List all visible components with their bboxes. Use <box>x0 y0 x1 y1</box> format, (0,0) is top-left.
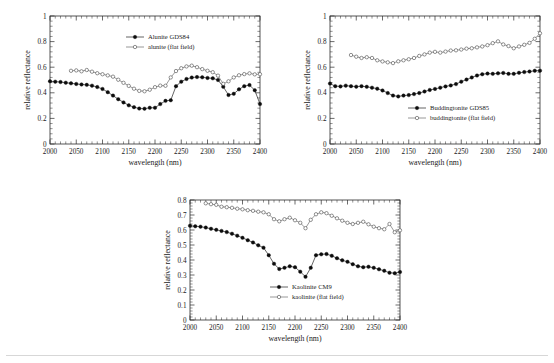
x-tick-label: 2050 <box>349 148 364 156</box>
data-point <box>206 76 210 80</box>
data-point <box>209 203 212 206</box>
data-point <box>423 90 427 94</box>
data-point <box>117 78 120 81</box>
data-point <box>470 47 473 50</box>
legend-label: Buddingtonite GDS85 <box>430 104 490 111</box>
y-tick-label: 0.5 <box>178 242 187 250</box>
data-point <box>272 218 275 221</box>
data-point <box>69 69 72 72</box>
data-point <box>533 69 537 73</box>
y-tick-label: 0.6 <box>318 64 327 72</box>
footer-divider <box>6 355 548 356</box>
data-point <box>433 50 436 53</box>
data-point <box>220 205 223 208</box>
data-point <box>138 107 142 111</box>
x-tick-label: 2300 <box>200 148 215 156</box>
data-point <box>230 232 234 236</box>
data-point <box>334 84 338 88</box>
data-point <box>386 61 389 64</box>
data-point <box>538 69 542 73</box>
data-point <box>360 84 364 88</box>
data-point <box>272 262 276 266</box>
data-point <box>328 82 332 86</box>
data-point <box>330 254 334 257</box>
legend-swatch-marker <box>415 116 418 119</box>
kaolinite-plot: 20002050210021502200225023002350240000.1… <box>148 190 410 358</box>
data-point <box>386 91 390 95</box>
data-point <box>243 84 247 88</box>
data-point <box>370 86 374 90</box>
chart-panel-kaolinite: 20002050210021502200225023002350240000.1… <box>148 190 410 358</box>
x-tick-label: 2150 <box>122 148 137 156</box>
data-point <box>304 275 308 279</box>
data-point <box>533 37 536 40</box>
data-point <box>148 88 151 91</box>
data-point <box>216 78 220 82</box>
data-point <box>159 102 163 106</box>
data-point <box>367 223 370 226</box>
y-axis-title: relative reflectance <box>23 50 32 110</box>
data-point <box>246 238 250 242</box>
data-point <box>320 211 323 214</box>
data-point <box>236 234 240 238</box>
data-point <box>325 252 329 256</box>
data-point <box>339 85 343 89</box>
data-point <box>335 256 339 260</box>
data-point <box>209 227 213 231</box>
data-point <box>349 53 352 56</box>
data-point <box>335 217 338 220</box>
data-point <box>393 231 396 234</box>
data-point <box>215 203 218 206</box>
x-tick-label: 2350 <box>367 324 382 332</box>
data-point <box>346 221 349 224</box>
data-point <box>201 67 204 70</box>
data-point <box>122 81 125 84</box>
data-point <box>528 70 532 74</box>
data-point <box>428 51 431 54</box>
data-point <box>388 271 392 275</box>
data-point <box>460 80 464 84</box>
data-point <box>138 89 141 92</box>
data-point <box>216 74 219 77</box>
data-point <box>75 69 78 72</box>
y-tick-label: 0 <box>323 141 327 149</box>
y-tick-label: 0.8 <box>178 197 187 205</box>
data-point <box>412 92 416 96</box>
data-point <box>59 80 63 84</box>
y-axis-title: relative reflectance <box>163 230 172 290</box>
data-point <box>481 45 484 48</box>
data-point <box>517 71 521 75</box>
data-point <box>117 97 121 101</box>
data-point <box>517 45 520 48</box>
x-tick-label: 2200 <box>428 148 443 156</box>
data-point <box>190 76 194 80</box>
data-point <box>475 74 479 78</box>
data-point <box>222 82 225 85</box>
data-point <box>407 58 410 61</box>
data-point <box>267 213 270 216</box>
data-point <box>174 69 177 72</box>
data-point <box>257 210 260 213</box>
spectral-reflectance-figure: 20002050210021502200225023002350240000.2… <box>0 0 554 363</box>
data-point <box>377 227 380 230</box>
data-point <box>227 93 231 97</box>
data-point <box>372 266 376 270</box>
chart-panel-buddingtonite: 20002050210021502200225023002350240000.2… <box>288 4 550 182</box>
data-point <box>454 49 457 52</box>
data-point <box>381 89 385 93</box>
y-tick-label: 0.1 <box>178 302 187 310</box>
data-point <box>391 61 394 64</box>
data-point <box>195 66 198 69</box>
data-point <box>293 219 296 222</box>
data-point <box>444 50 447 53</box>
data-point <box>360 56 363 59</box>
data-point <box>211 70 214 73</box>
data-point <box>418 91 422 95</box>
data-point <box>314 213 317 216</box>
data-point <box>397 60 400 63</box>
data-point <box>496 40 499 43</box>
data-point <box>351 222 354 225</box>
data-point <box>169 76 172 79</box>
data-point <box>433 87 437 91</box>
data-point <box>127 104 131 108</box>
